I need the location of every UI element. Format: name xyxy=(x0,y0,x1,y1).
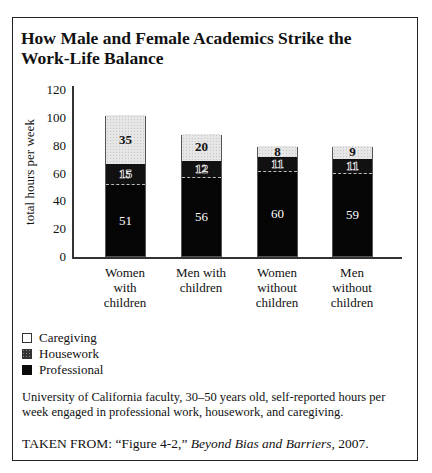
x-category-line: Women xyxy=(87,265,163,280)
bar-value-label: 56 xyxy=(195,209,208,225)
chart-title: How Male and Female Academics Strike the… xyxy=(21,28,401,68)
x-category-line: Women xyxy=(239,265,315,280)
title-line-2: Work-Life Balance xyxy=(21,48,401,68)
y-tick-label: 60 xyxy=(38,167,66,181)
legend: Caregiving Housework Professional xyxy=(22,330,103,378)
x-category-line: without xyxy=(239,280,315,295)
legend-label: Caregiving xyxy=(39,330,97,346)
bar-value-label: 35 xyxy=(119,132,132,148)
stacked-bar: 60118 xyxy=(257,147,298,257)
housework-swatch-icon xyxy=(22,349,32,359)
x-category-line: children xyxy=(163,280,239,295)
figure-note: University of California faculty, 30–50 … xyxy=(22,390,412,420)
bar-value-label: 60 xyxy=(271,206,284,222)
y-tick-label: 80 xyxy=(38,139,66,153)
y-axis-line xyxy=(72,86,74,258)
title-line-1: How Male and Female Academics Strike the xyxy=(21,28,401,48)
source-suffix: 2007. xyxy=(335,436,369,451)
x-category-label: Womenwithoutchildren xyxy=(239,265,315,310)
x-category-label: Menwithoutchildren xyxy=(314,265,390,310)
x-category-label: Womenwithchildren xyxy=(87,265,163,310)
bar-segment-caregiving: 20 xyxy=(182,134,221,162)
x-category-label: Men withchildren xyxy=(163,265,239,295)
x-category-line: children xyxy=(314,295,390,310)
caregiving-swatch-icon xyxy=(22,333,32,343)
legend-item-professional: Professional xyxy=(22,362,103,378)
x-category-line: with xyxy=(87,280,163,295)
source-prefix: TAKEN FROM: “Figure 4-2,” xyxy=(22,436,191,451)
legend-item-housework: Housework xyxy=(22,346,103,362)
y-tick-label: 0 xyxy=(38,250,66,264)
bar-segment-caregiving: 8 xyxy=(258,146,297,157)
bar-value-label: 12 xyxy=(195,161,208,177)
bar-segment-professional: 59 xyxy=(333,174,372,256)
y-tick-label: 20 xyxy=(38,222,66,236)
bar-value-label: 20 xyxy=(195,139,208,155)
x-category-line: without xyxy=(314,280,390,295)
y-axis-label-text: total hours per week xyxy=(22,119,38,225)
bar-value-label: 15 xyxy=(119,166,132,182)
bar-segment-professional: 56 xyxy=(182,178,221,256)
bar-segment-caregiving: 35 xyxy=(106,115,145,164)
source-book-title: Beyond Bias and Barriers, xyxy=(191,436,335,451)
bar-segment-professional: 60 xyxy=(258,172,297,256)
x-axis-line xyxy=(72,257,402,259)
bar-value-label: 59 xyxy=(346,207,359,223)
bar-value-label: 9 xyxy=(349,144,356,160)
y-tick-label: 100 xyxy=(38,111,66,125)
bar-segment-caregiving: 9 xyxy=(333,146,372,159)
bar-segment-housework: 15 xyxy=(106,164,145,185)
stacked-bar: 59119 xyxy=(332,147,373,257)
y-tick-label: 120 xyxy=(38,83,66,97)
source-citation: TAKEN FROM: “Figure 4-2,” Beyond Bias an… xyxy=(22,436,412,452)
bar-value-label: 8 xyxy=(274,144,281,160)
bar-value-label: 51 xyxy=(119,213,132,229)
x-category-line: Men xyxy=(314,265,390,280)
x-category-line: children xyxy=(87,295,163,310)
stacked-bar: 511535 xyxy=(105,116,146,257)
bar-segment-housework: 11 xyxy=(333,159,372,174)
bar-segment-professional: 51 xyxy=(106,185,145,256)
x-category-line: children xyxy=(239,295,315,310)
professional-swatch-icon xyxy=(22,365,32,375)
legend-label: Professional xyxy=(39,362,103,378)
legend-item-caregiving: Caregiving xyxy=(22,330,103,346)
legend-label: Housework xyxy=(39,346,99,362)
bar-segment-housework: 12 xyxy=(182,161,221,178)
stacked-bar: 561220 xyxy=(181,135,222,257)
y-tick-label: 40 xyxy=(38,194,66,208)
x-category-line: Men with xyxy=(163,265,239,280)
